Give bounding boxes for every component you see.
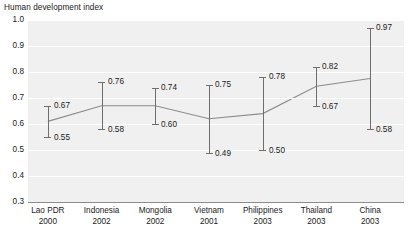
category-year: 2000 — [21, 217, 75, 228]
value-label-upper: 0.75 — [215, 80, 231, 89]
gridline — [28, 72, 404, 73]
error-bar-stem — [263, 77, 264, 150]
value-label-lower: 0.58 — [108, 125, 124, 134]
value-label-lower: 0.55 — [54, 133, 70, 142]
x-axis-category-label: Philippines2003 — [236, 206, 290, 227]
category-year: 2003 — [343, 217, 397, 228]
error-bar-cap-lower — [152, 124, 159, 125]
gridline — [28, 46, 404, 47]
error-bar-cap-lower — [367, 129, 374, 130]
category-year: 2002 — [75, 217, 129, 228]
gridline — [28, 124, 404, 125]
error-bar-cap-upper — [44, 106, 51, 107]
gridline — [28, 176, 404, 177]
category-name: Thailand — [301, 206, 332, 215]
category-name: Vietnam — [194, 206, 224, 215]
value-label-lower: 0.49 — [215, 149, 231, 158]
y-axis-tick-label: 1.0 — [0, 15, 24, 24]
error-bar-cap-upper — [367, 28, 374, 29]
value-label-upper: 0.78 — [269, 72, 285, 81]
category-name: Philippines — [243, 206, 283, 215]
y-axis-tick-label: 0.9 — [0, 41, 24, 50]
error-bar-stem — [48, 106, 49, 137]
value-label-lower: 0.60 — [161, 120, 177, 129]
chart-title: Human development index — [4, 3, 103, 12]
y-axis-tick-label: 0.3 — [0, 197, 24, 206]
error-bar-stem — [155, 88, 156, 124]
error-bar-cap-lower — [44, 137, 51, 138]
category-name: Mongolia — [139, 206, 172, 215]
error-bar-cap-upper — [206, 85, 213, 86]
x-axis-category-label: Vietnam2001 — [182, 206, 236, 227]
error-bar-stem — [370, 28, 371, 129]
value-label-lower: 0.67 — [322, 102, 338, 111]
value-label-upper: 0.76 — [108, 77, 124, 86]
error-bar-cap-lower — [206, 153, 213, 154]
error-bar-cap-lower — [259, 150, 266, 151]
error-bar-cap-lower — [98, 129, 105, 130]
category-year: 2003 — [236, 217, 290, 228]
error-bar-stem — [102, 82, 103, 129]
gridline — [28, 98, 404, 99]
error-bar-cap-upper — [152, 88, 159, 89]
y-axis-tick-label: 0.5 — [0, 145, 24, 154]
plot-area-background — [28, 20, 404, 202]
error-bar-stem — [316, 67, 317, 106]
value-label-upper: 0.74 — [161, 83, 177, 92]
y-axis-tick-label: 0.4 — [0, 171, 24, 180]
x-axis-category-label: Thailand2003 — [290, 206, 344, 227]
error-bar-cap-upper — [313, 67, 320, 68]
gridline — [28, 20, 404, 21]
error-bar-stem — [209, 85, 210, 153]
y-axis-tick-label: 0.6 — [0, 119, 24, 128]
x-axis-category-label: Mongolia2002 — [128, 206, 182, 227]
category-name: China — [359, 206, 380, 215]
category-name: Indonesia — [84, 206, 120, 215]
value-label-upper: 0.67 — [54, 101, 70, 110]
error-bar-cap-upper — [98, 82, 105, 83]
category-name: Lao PDR — [31, 206, 64, 215]
error-bar-cap-lower — [313, 106, 320, 107]
y-axis-tick-label: 0.8 — [0, 67, 24, 76]
value-label-upper: 0.82 — [322, 62, 338, 71]
x-axis-category-label: China2003 — [343, 206, 397, 227]
y-axis-tick-label: 0.7 — [0, 93, 24, 102]
category-year: 2003 — [290, 217, 344, 228]
error-bar-cap-upper — [259, 77, 266, 78]
x-axis-line — [28, 202, 404, 203]
human-development-index-chart: Human development index 1.00.90.80.70.60… — [0, 0, 416, 241]
category-year: 2001 — [182, 217, 236, 228]
value-label-upper: 0.97 — [376, 23, 392, 32]
category-year: 2002 — [128, 217, 182, 228]
x-axis-category-label: Lao PDR2000 — [21, 206, 75, 227]
value-label-lower: 0.50 — [269, 146, 285, 155]
x-axis-category-label: Indonesia2002 — [75, 206, 129, 227]
value-label-lower: 0.58 — [376, 125, 392, 134]
